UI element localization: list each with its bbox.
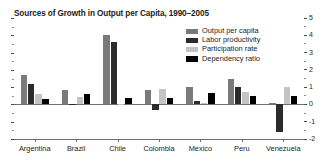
bar-group [145, 18, 173, 139]
plot-area [14, 18, 304, 139]
bar [28, 84, 34, 105]
bar [111, 42, 117, 104]
y-tick-label: -1 [309, 117, 315, 126]
bar [125, 98, 131, 104]
y-minor-tick-mark [304, 130, 306, 131]
legend-swatch [186, 38, 198, 44]
y-tick-mark [304, 69, 307, 70]
bar [77, 97, 83, 105]
legend-swatch [186, 47, 198, 53]
x-axis-category-label: Peru [234, 144, 250, 153]
y-tick-mark [304, 52, 307, 53]
bar [208, 93, 214, 104]
bar [21, 75, 27, 104]
x-axis-tick [118, 139, 119, 142]
y-tick-label: 2 [309, 65, 313, 74]
bar [201, 103, 207, 105]
y-tick-mark [304, 18, 307, 19]
x-axis-category-label: Chile [109, 144, 126, 153]
chart-container: Sources of Growth in Output per Capita, … [0, 0, 324, 164]
bar [35, 94, 41, 104]
bar [42, 99, 48, 104]
y-tick-label: -2 [309, 134, 315, 143]
chart-title: Sources of Growth in Output per Capita, … [14, 9, 209, 18]
x-axis-category-label: Venezuela [266, 144, 301, 153]
bar-group [103, 18, 131, 139]
y-tick-mark [304, 87, 307, 88]
x-axis-category-label: Colombia [143, 144, 174, 153]
y-minor-tick-mark [304, 26, 306, 27]
x-axis-tick [35, 139, 36, 142]
bar [284, 87, 290, 104]
legend-swatch [186, 29, 198, 35]
x-axis-category-label: Mexico [189, 144, 212, 153]
y-tick-mark [304, 121, 307, 122]
bar [242, 92, 248, 104]
y-tick-mark [304, 104, 307, 105]
bar [228, 79, 234, 105]
legend-label: Participation rate [202, 45, 257, 54]
y-minor-tick-mark [304, 95, 306, 96]
bar [269, 103, 275, 105]
y-tick-label: 4 [309, 30, 313, 39]
legend-swatch [186, 56, 198, 62]
chart-legend: Output per capitaLabor productivityParti… [186, 27, 260, 64]
bar [118, 104, 124, 105]
y-tick-label: 1 [309, 82, 313, 91]
bar [62, 90, 68, 105]
y-tick-label: 0 [309, 99, 313, 108]
y-tick-label: 5 [309, 13, 313, 22]
x-axis-tick [242, 139, 243, 142]
x-axis-tick [283, 139, 284, 142]
y-tick-mark [304, 35, 307, 36]
y-axis-right: -2-1012345 [304, 18, 324, 139]
bar [250, 96, 256, 105]
bar [276, 104, 282, 132]
bar [167, 98, 173, 105]
bar [69, 104, 75, 105]
bar [194, 101, 200, 104]
y-tick-label: 3 [309, 48, 313, 57]
y-tick-mark [304, 139, 307, 140]
legend-item: Participation rate [186, 45, 260, 54]
y-minor-tick-mark [304, 61, 306, 62]
bar [186, 87, 192, 104]
y-minor-tick-mark [304, 43, 306, 44]
y-minor-tick-mark [304, 78, 306, 79]
x-axis-category-label: Brazil [67, 144, 85, 153]
bar-group [62, 18, 90, 139]
x-axis-tick [76, 139, 77, 142]
x-axis-tick [200, 139, 201, 142]
bar-group [269, 18, 297, 139]
bar [103, 35, 109, 104]
x-axis-category-label: Argentina [19, 144, 51, 153]
bar [235, 87, 241, 104]
bar [159, 89, 165, 105]
bar [291, 96, 297, 105]
legend-label: Dependency ratio [202, 55, 260, 64]
bar [84, 94, 90, 104]
legend-item: Dependency ratio [186, 55, 260, 64]
bar [145, 90, 151, 105]
x-axis-tick [159, 139, 160, 142]
bar [152, 104, 158, 110]
bar-group [21, 18, 49, 139]
y-minor-tick-mark [304, 113, 306, 114]
